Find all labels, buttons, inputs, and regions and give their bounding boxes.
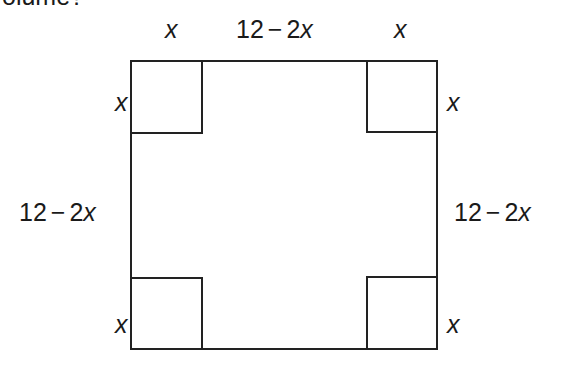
cut-corners-square-diagram	[0, 0, 563, 365]
label-left-top-x: x	[115, 88, 128, 116]
label-top-middle: 12−2x	[236, 15, 313, 43]
corner-square-top-left	[131, 61, 202, 133]
corner-square-bottom-right	[367, 277, 437, 349]
corner-square-bottom-left	[131, 278, 202, 349]
label-top-left-x: x	[165, 15, 178, 43]
label-right-bottom-x: x	[447, 310, 460, 338]
outer-square	[131, 61, 437, 349]
label-left-middle: 12−2x	[19, 198, 96, 226]
label-left-bottom-x: x	[115, 310, 128, 338]
label-right-middle: 12−2x	[454, 198, 531, 226]
label-top-right-x: x	[394, 15, 407, 43]
label-right-top-x: x	[447, 88, 460, 116]
corner-square-top-right	[367, 61, 437, 132]
